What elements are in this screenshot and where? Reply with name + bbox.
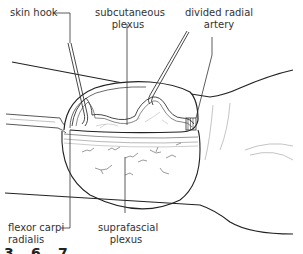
label-text: artery xyxy=(181,19,257,31)
hand-outline xyxy=(205,103,293,160)
label-suprafascial-plexus: suprafascial plexus xyxy=(98,222,154,246)
label-text: skin hook xyxy=(10,7,58,18)
label-text: plexus xyxy=(98,234,154,246)
label-text: subcutaneous xyxy=(95,7,161,19)
label-subcutaneous-plexus: subcutaneous plexus xyxy=(95,7,161,31)
label-divided-radial-artery: divided radial artery xyxy=(181,7,257,31)
label-text: flexor carpi xyxy=(8,222,64,234)
label-skin-hook: skin hook xyxy=(10,7,58,19)
label-text: suprafascial xyxy=(98,222,154,234)
raised-flap xyxy=(64,82,198,133)
forearm-flap-diagram: skin hook subcutaneous plexus divided ra… xyxy=(0,0,303,254)
label-text: radialis xyxy=(8,234,64,246)
figure-number-cropped: 3.6.7 xyxy=(4,246,74,254)
label-text: divided radial xyxy=(181,7,257,19)
anatomy-illustration xyxy=(0,0,303,254)
forearm-upper-edge xyxy=(12,62,128,84)
suprafascial-vessels xyxy=(82,143,181,175)
suprafascial-flap-outline xyxy=(62,130,200,209)
label-text: plexus xyxy=(95,19,161,31)
label-flexor-carpi-radialis: flexor carpi radialis xyxy=(8,222,64,246)
leader-radial-artery xyxy=(196,37,212,118)
